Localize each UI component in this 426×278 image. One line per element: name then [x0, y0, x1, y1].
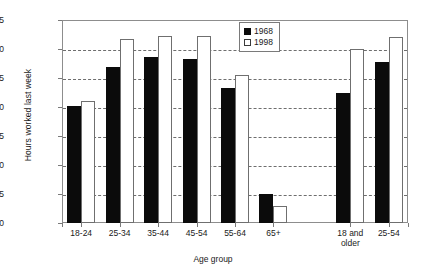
x-category-label: 25-54	[359, 229, 419, 239]
bar	[389, 37, 403, 223]
bar	[183, 59, 197, 223]
y-tick-label: 10	[0, 161, 4, 170]
legend-swatch-filled-square	[244, 28, 251, 35]
bar	[350, 49, 364, 223]
bar	[144, 57, 158, 223]
bar	[67, 106, 81, 223]
bars-layer	[62, 20, 408, 223]
legend-swatch-hollow-square	[244, 39, 251, 46]
y-tick-label: 0	[0, 219, 4, 228]
y-tick-label: 30	[0, 45, 4, 54]
y-tick-label: 25	[0, 74, 4, 83]
chart-legend: 1968 1998	[239, 22, 280, 52]
x-tick-mark	[235, 223, 236, 227]
x-axis-title: Age group	[0, 254, 426, 264]
legend-label: 1998	[254, 38, 273, 47]
y-tick-label: 15	[0, 132, 4, 141]
y-tick-label: 35	[0, 16, 4, 25]
bar	[106, 67, 120, 223]
bar	[221, 88, 235, 223]
bar	[273, 206, 287, 223]
bar	[375, 62, 389, 223]
bar	[259, 194, 273, 223]
x-tick-mark	[197, 223, 198, 227]
x-tick-mark	[158, 223, 159, 227]
bar	[197, 36, 211, 223]
bar-chart: Hours worked last week 05101520253035 18…	[0, 0, 426, 278]
bar	[235, 75, 249, 223]
legend-item-1968: 1968	[244, 26, 273, 37]
y-tick-label: 5	[0, 190, 4, 199]
bar	[81, 101, 95, 223]
x-category-label: 65+	[243, 229, 303, 239]
legend-label: 1968	[254, 27, 273, 36]
y-tick-label: 20	[0, 103, 4, 112]
bar	[120, 39, 134, 223]
y-axis-title: Hours worked last week	[23, 30, 33, 200]
bar	[336, 93, 350, 224]
x-tick-mark	[350, 223, 351, 227]
x-tick-mark	[273, 223, 274, 227]
bar	[158, 36, 172, 223]
legend-item-1998: 1998	[244, 37, 273, 48]
x-tick-mark	[81, 223, 82, 227]
x-tick-mark	[389, 223, 390, 227]
x-tick-mark	[120, 223, 121, 227]
x-tick-mark	[62, 223, 63, 227]
x-tick-mark	[408, 223, 409, 227]
